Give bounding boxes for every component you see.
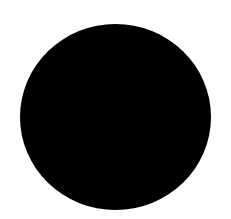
black-circle xyxy=(20,24,211,210)
canvas xyxy=(0,0,231,219)
